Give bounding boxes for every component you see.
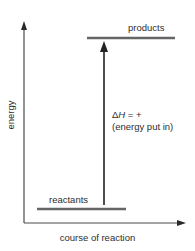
x-axis bbox=[24, 220, 186, 226]
y-axis bbox=[21, 21, 27, 223]
delta-h-label: ΔH = + bbox=[112, 109, 142, 120]
reactants-label: reactants bbox=[49, 194, 88, 205]
y-axis-arrowhead-icon bbox=[21, 21, 27, 30]
enthalpy-arrow bbox=[100, 41, 108, 205]
enthalpy-relation: = + bbox=[125, 109, 141, 120]
x-axis-arrowhead-icon bbox=[177, 220, 186, 226]
products-label: products bbox=[128, 22, 164, 33]
y-axis-label: energy bbox=[5, 100, 16, 129]
energy-put-in-note: (energy put in) bbox=[112, 121, 173, 132]
x-axis-label: course of reaction bbox=[0, 232, 195, 243]
enthalpy-arrowhead-icon bbox=[100, 41, 108, 52]
